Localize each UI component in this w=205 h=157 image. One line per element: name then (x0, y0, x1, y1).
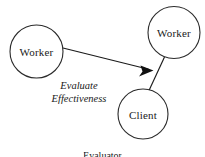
edge-worker-client-line (149, 57, 165, 91)
edge-evaluate-arrow-line (63, 48, 149, 69)
edge-caption-line-2: Effectiveness (52, 93, 107, 106)
node-label-worker-right: Worker (157, 27, 191, 39)
diagram-canvas: Worker Worker Client Evaluate Effectiven… (0, 0, 205, 157)
edge-caption-evaluate-effectiveness: Evaluate Effectiveness (52, 80, 107, 105)
node-label-worker-left: Worker (20, 46, 54, 58)
arrowhead-icon (139, 66, 154, 77)
diagram-bottom-caption: Evaluator (83, 150, 122, 157)
diagram-vector-layer (0, 0, 205, 157)
node-label-client: Client (129, 109, 157, 121)
edge-caption-line-1: Evaluate (52, 80, 107, 93)
